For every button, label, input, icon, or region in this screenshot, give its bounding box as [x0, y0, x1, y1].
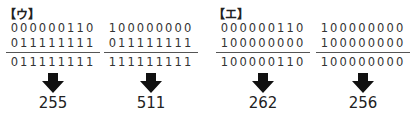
- down-arrow-icon: [140, 73, 162, 93]
- operand-1: 100000000: [104, 22, 198, 35]
- result-decimal: 256: [316, 94, 410, 112]
- operand-2: 100000000: [316, 37, 410, 50]
- operand-2: 011111111: [6, 37, 100, 50]
- calc-column: 100000000 100000000 100000000 256: [316, 0, 410, 115]
- sum-rule: [216, 52, 310, 53]
- result-decimal: 511: [104, 94, 198, 112]
- down-arrow-icon: [42, 73, 64, 93]
- result-binary: 011111111: [6, 56, 100, 69]
- result-decimal: 255: [6, 94, 100, 112]
- result-binary: 111111111: [104, 56, 198, 69]
- operand-2: 011111111: [104, 37, 198, 50]
- sum-rule: [104, 52, 198, 53]
- down-arrow-icon: [352, 73, 374, 93]
- operand-1: 000000110: [216, 22, 310, 35]
- result-binary: 100000000: [316, 56, 410, 69]
- calc-column: 000000110 100000000 100000110 262: [216, 0, 310, 115]
- operand-2: 100000000: [216, 37, 310, 50]
- operand-1: 100000000: [316, 22, 410, 35]
- sum-rule: [316, 52, 410, 53]
- sum-rule: [6, 52, 100, 53]
- calc-column: 100000000 011111111 111111111 511: [104, 0, 198, 115]
- operand-1: 000000110: [6, 22, 100, 35]
- result-binary: 100000110: [216, 56, 310, 69]
- calc-column: 000000110 011111111 011111111 255: [6, 0, 100, 115]
- result-decimal: 262: [216, 94, 310, 112]
- down-arrow-icon: [252, 73, 274, 93]
